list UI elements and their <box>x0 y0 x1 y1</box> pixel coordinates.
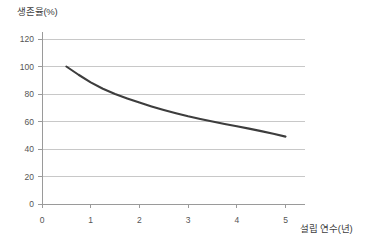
y-tick-label: 120 <box>8 35 34 44</box>
y-tick-label: 80 <box>8 90 34 99</box>
y-tick-label: 20 <box>8 173 34 182</box>
y-tick-label: 0 <box>8 200 34 209</box>
x-tick-label: 4 <box>227 216 247 225</box>
x-tick-label: 5 <box>276 216 296 225</box>
survival-rate-chart: 생존율(%) 설립 연수(년) 020406080100120012345 <box>0 0 366 248</box>
x-tick-label: 0 <box>32 216 52 225</box>
y-tick-label: 40 <box>8 145 34 154</box>
y-tick-label: 60 <box>8 118 34 127</box>
x-tick-label: 3 <box>178 216 198 225</box>
x-tick-label: 2 <box>129 216 149 225</box>
series-line-0 <box>66 67 285 137</box>
plot-area <box>0 0 366 248</box>
x-tick-label: 1 <box>81 216 101 225</box>
y-tick-label: 100 <box>8 63 34 72</box>
